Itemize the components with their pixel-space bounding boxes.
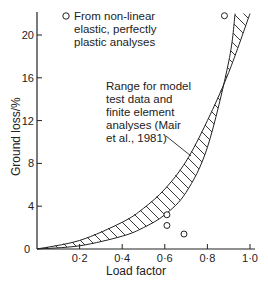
legend-line-2: elastic, perfectly bbox=[74, 23, 157, 35]
x-axis-title: Load factor bbox=[106, 264, 166, 278]
legend-line-3: plastic analyses bbox=[74, 36, 155, 48]
y-tick-label: 16 bbox=[22, 72, 34, 84]
x-tick-label: 0·4 bbox=[114, 252, 130, 264]
x-tick-label: 0·8 bbox=[199, 252, 215, 264]
y-ticks: 048121620 bbox=[22, 29, 42, 255]
y-axis-title: Ground loss/% bbox=[9, 97, 23, 176]
y-tick-label: 20 bbox=[22, 29, 34, 41]
annotation-line-3: finite element bbox=[106, 106, 175, 118]
x-ticks: 0·20·40·60·81·0 bbox=[72, 244, 258, 264]
y-tick-label: 12 bbox=[22, 115, 34, 127]
legend-line-1: From non-linear bbox=[74, 10, 155, 22]
data-point-circle bbox=[221, 13, 227, 19]
x-tick-label: 0·2 bbox=[72, 252, 88, 264]
x-tick-label: 1·0 bbox=[242, 252, 258, 264]
annotation-line-4: analyses (Mair bbox=[106, 119, 181, 131]
ground-loss-chart: 048121620 0·20·40·60·81·0 Load factor Gr… bbox=[0, 0, 268, 281]
data-point-circle bbox=[164, 222, 170, 228]
y-tick-label: 8 bbox=[28, 157, 34, 169]
annotation-leader-arrow bbox=[166, 136, 191, 156]
annotation-line-2: test data and bbox=[106, 93, 173, 105]
annotation-line-5: et al., 1981) bbox=[106, 132, 167, 144]
data-point-circle bbox=[181, 231, 187, 237]
data-point-circle bbox=[164, 212, 170, 218]
y-tick-label: 4 bbox=[28, 200, 34, 212]
legend-marker-circle bbox=[63, 13, 69, 19]
y-tick-label: 0 bbox=[24, 243, 30, 255]
annotation-line-1: Range for model bbox=[106, 80, 191, 92]
x-tick-label: 0·6 bbox=[157, 252, 173, 264]
